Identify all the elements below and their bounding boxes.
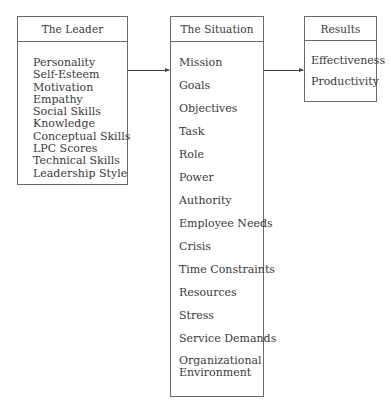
situation-item: Role [179, 148, 276, 171]
leader-item: Leadership Style [33, 168, 130, 180]
situation-item: Service Demands [179, 332, 276, 355]
results-item: Effectiveness [311, 54, 385, 75]
results-title: Results [305, 17, 376, 41]
situation-item: Employee Needs [179, 217, 276, 240]
situation-title: The Situation [171, 17, 263, 42]
results-item: Productivity [311, 75, 385, 96]
situation-item: Crisis [179, 240, 276, 263]
leader-box: The Leader Personality Self-Esteem Motiv… [17, 16, 128, 185]
situation-item: Power [179, 171, 276, 194]
situation-item: Goals [179, 79, 276, 102]
arrow-situation-to-results [264, 70, 303, 71]
situation-item: Authority [179, 194, 276, 217]
situation-item: Time Constraints [179, 263, 276, 286]
situation-item: Objectives [179, 102, 276, 125]
situation-item: Stress [179, 309, 276, 332]
situation-item: Task [179, 125, 276, 148]
situation-box: The Situation Mission Goals Objectives T… [170, 16, 264, 397]
results-items: Effectiveness Productivity [311, 54, 385, 96]
situation-item: Organizational Environment [179, 355, 263, 378]
leader-items: Personality Self-Esteem Motivation Empat… [33, 57, 130, 180]
situation-items: Mission Goals Objectives Task Role Power… [179, 56, 276, 378]
leader-title: The Leader [18, 17, 127, 42]
results-box: Results Effectiveness Productivity [304, 16, 377, 102]
arrow-leader-to-situation [128, 70, 169, 71]
situation-item: Mission [179, 56, 276, 79]
situation-item: Resources [179, 286, 276, 309]
